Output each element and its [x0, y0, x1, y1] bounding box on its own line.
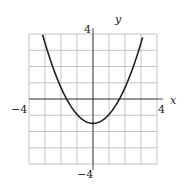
x-max-tick-label: 4: [158, 103, 165, 116]
x-axis-label: x: [170, 94, 177, 107]
parabola-graph: y 4 −4 −4 4 x: [0, 0, 185, 186]
y-max-tick-label: 4: [84, 23, 91, 36]
axes: [29, 28, 163, 170]
y-min-tick-label: −4: [77, 168, 93, 181]
y-axis-label: y: [114, 13, 122, 26]
x-min-tick-label: −4: [11, 103, 27, 116]
